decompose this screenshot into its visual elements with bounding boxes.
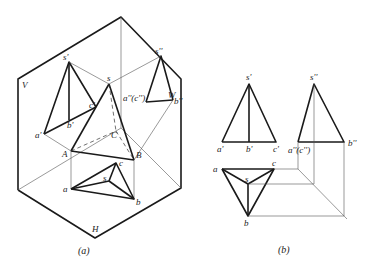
label-C: C (111, 130, 118, 140)
label-s: s (103, 173, 107, 183)
label-b-s-prime: s' (246, 72, 253, 82)
label-b-a: a (213, 164, 218, 174)
label-b-b: b (244, 218, 249, 228)
label-b-c-prime: c' (273, 144, 280, 154)
edge-AC-hidden (71, 131, 116, 151)
label-b-prime: b' (67, 120, 75, 130)
caption-b: (b) (278, 244, 290, 256)
caption-a: (a) (78, 245, 90, 257)
label-c: c (119, 158, 123, 168)
figure-a: V W H s' a' b' c' s'' a''(c'') b'' s A B… (18, 17, 183, 257)
label-b-dprime: b'' (174, 96, 183, 106)
figure-b: s' a' b' c' s'' a''(c'') b'' s a b c (b) (213, 72, 357, 256)
label-S: s (107, 73, 111, 83)
label-b-b-prime: b' (246, 144, 254, 154)
label-b-b-dprime: b'' (348, 138, 357, 148)
label-plane-h: H (91, 224, 99, 234)
label-a-prime: a' (35, 130, 43, 140)
edge-CB-hidden (116, 131, 134, 160)
label-b-s: s (245, 174, 249, 184)
label-b-s-dprime: s'' (310, 72, 318, 82)
edge-SC-hidden (109, 84, 116, 131)
w-projection-base (146, 100, 173, 102)
label-b: b (136, 197, 141, 207)
label-B: B (136, 150, 142, 160)
label-s-prime: s' (63, 52, 70, 62)
label-a: a (63, 184, 68, 194)
label-b-a-dprime-c-dprime: a''(c'') (288, 145, 310, 155)
label-plane-v: V (22, 80, 29, 90)
label-b-a-prime: a' (217, 144, 225, 154)
projection-diagram: V W H s' a' b' c' s'' a''(c'') b'' s A B… (0, 0, 368, 272)
label-s-dprime: s'' (155, 46, 163, 56)
side-view-triangle (298, 84, 344, 142)
construct-45-degree (298, 169, 347, 219)
label-b-c: c (272, 158, 276, 168)
axis-y (121, 128, 181, 188)
label-A: A (61, 149, 68, 159)
label-a-dprime-c-dprime: a''(c'') (123, 93, 145, 103)
edge-AB (71, 151, 134, 160)
